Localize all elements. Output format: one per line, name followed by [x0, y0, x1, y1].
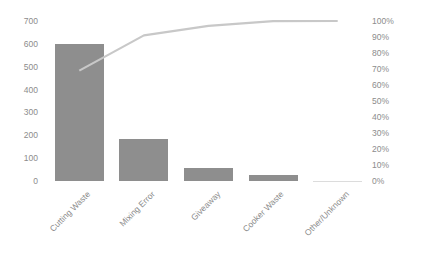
- pareto-chart: 0100200300400500600700 0%10%20%30%40%50%…: [0, 0, 424, 253]
